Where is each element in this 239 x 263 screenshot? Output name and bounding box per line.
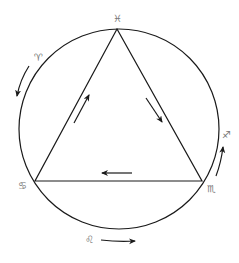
arc-aries-arrow (17, 66, 29, 96)
left-edge-arrow (74, 95, 89, 123)
triangle (35, 29, 202, 181)
aries-label: ♈ (34, 52, 43, 63)
triplicity-diagram: ♓ ♈ ♋ ♏ ♐ ♌ (0, 0, 239, 263)
right-edge-arrow (146, 98, 162, 122)
zodiac-circle (19, 29, 219, 229)
leo-label: ♌ (85, 234, 94, 245)
pisces-label: ♓ (113, 13, 122, 24)
scorpio-label: ♏ (207, 183, 216, 194)
sagittarius-label: ♐ (222, 129, 231, 140)
cancer-label: ♋ (18, 180, 27, 191)
arc-leo-arrow (101, 240, 135, 241)
